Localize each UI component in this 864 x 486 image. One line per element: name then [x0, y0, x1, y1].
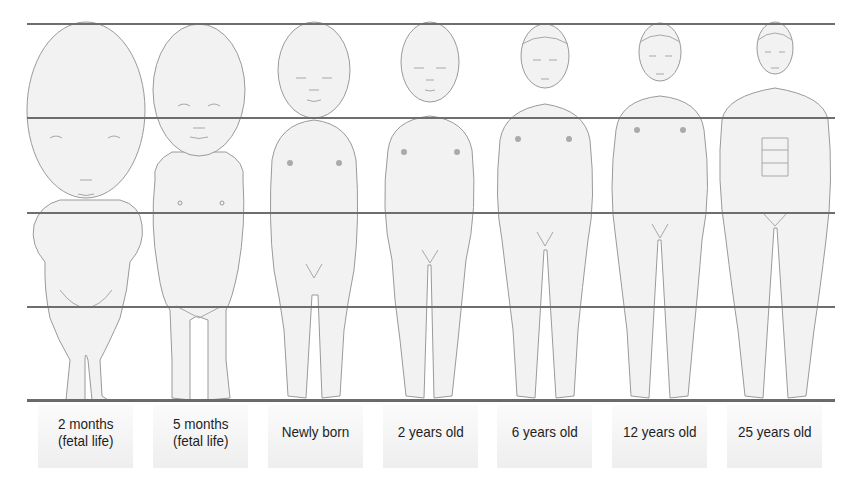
figure-fetal-2-months: [27, 22, 145, 400]
label-text: Newly born: [282, 423, 350, 450]
label-text: 2 months (fetal life): [58, 415, 114, 459]
figure-age-2: [385, 22, 474, 398]
label-text: 25 years old: [738, 423, 812, 450]
label-age-12: 12 years old: [612, 405, 707, 468]
label-age-6: 6 years old: [497, 405, 592, 468]
guide-line-4: [27, 306, 835, 308]
figure-age-12: [612, 23, 708, 398]
label-newborn: Newly born: [268, 405, 363, 468]
label-text: 6 years old: [511, 423, 577, 450]
label-text: 2 years old: [397, 423, 463, 450]
label-text: 5 months (fetal life): [173, 415, 229, 459]
label-age-25: 25 years old: [727, 405, 822, 468]
label-fetal-5-months: 5 months (fetal life): [153, 405, 248, 468]
ground-baseline: [27, 399, 835, 402]
guide-line-1: [27, 23, 835, 25]
label-age-2: 2 years old: [383, 405, 478, 468]
figure-newborn: [270, 22, 357, 398]
label-fetal-2-months: 2 months (fetal life): [38, 405, 133, 468]
guide-line-2: [27, 117, 835, 119]
guide-line-3: [27, 212, 835, 214]
figure-age-25: [720, 22, 831, 398]
body-proportions-diagram: 2 months (fetal life) 5 months (fetal li…: [0, 0, 864, 486]
figure-age-6: [497, 24, 592, 398]
label-text: 12 years old: [623, 423, 697, 450]
